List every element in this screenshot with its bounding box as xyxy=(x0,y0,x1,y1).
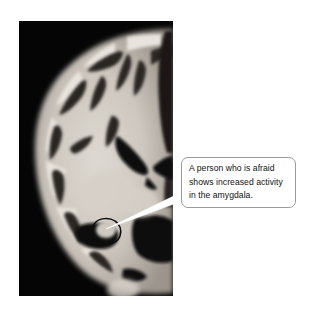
brain-scan-svg xyxy=(19,21,173,296)
mri-brain-scan-image xyxy=(19,21,173,296)
callout-line-3: in the amygdala. xyxy=(189,189,293,203)
callout-box[interactable]: A person who is afraid shows increased a… xyxy=(181,157,296,208)
figure-page: A person who is afraid shows increased a… xyxy=(0,0,310,313)
callout-line-2: shows increased activity xyxy=(189,176,293,190)
callout-line-1: A person who is afraid xyxy=(189,162,293,176)
callout-text-block: A person who is afraid shows increased a… xyxy=(189,162,293,203)
amygdala-region xyxy=(96,222,116,238)
